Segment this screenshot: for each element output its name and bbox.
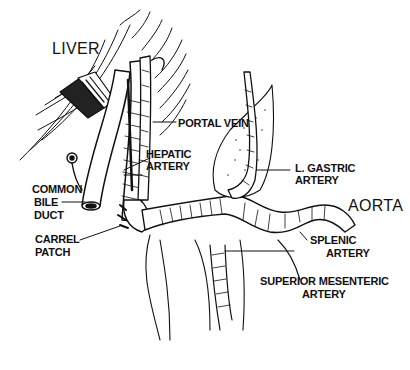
label-liver: LIVER: [52, 40, 100, 57]
label-common-bile-duct-line3: DUCT: [34, 209, 64, 221]
label-l-gastric-artery-line1: L. GASTRIC: [295, 162, 355, 174]
hepatic-artery-vessel: [138, 56, 164, 200]
label-carrel-patch-line2: PATCH: [35, 246, 70, 258]
label-common-bile-duct-line1: COMMON: [32, 183, 82, 195]
label-carrel-patch-line1: CARREL: [35, 233, 80, 245]
splenic-artery-vessel: [142, 196, 355, 233]
label-splenic-artery-line1: SPLENIC: [310, 234, 356, 246]
label-hepatic-artery-line1: HEPATIC: [146, 148, 191, 160]
label-splenic-artery-line2: ARTERY: [326, 247, 370, 259]
label-l-gastric-artery-line2: ARTERY: [295, 174, 339, 186]
label-hepatic-artery-line2: ARTERY: [146, 160, 190, 172]
label-superior-mesenteric-artery-line2: ARTERY: [302, 288, 346, 300]
superior-mesenteric-artery-vessel: [210, 245, 232, 330]
label-common-bile-duct-line2: BILE: [34, 196, 58, 208]
label-superior-mesenteric-artery-line1: SUPERIOR MESENTERIC: [260, 275, 389, 287]
carrel-patch-leader: [80, 226, 120, 240]
anatomy-diagram: LIVER PORTAL VEIN HEPATIC ARTERY COMMON …: [0, 0, 410, 370]
label-portal-vein: PORTAL VEIN: [178, 117, 249, 129]
splenic-artery-leader: [300, 232, 307, 240]
label-aorta: AORTA: [348, 197, 403, 214]
